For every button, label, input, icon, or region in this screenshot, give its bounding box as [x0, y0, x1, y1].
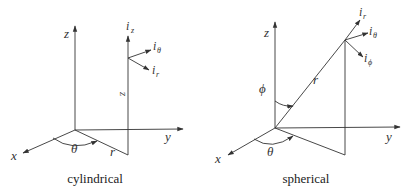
i-theta-label-base: i — [369, 24, 372, 38]
z-axis-label: z — [263, 25, 269, 40]
i-r-label: i r — [359, 5, 367, 21]
i-phi-label: i ϕ — [364, 51, 372, 67]
y-axis-label: y — [384, 129, 392, 144]
i-r-label-sub: r — [363, 12, 367, 21]
r-label: r — [110, 144, 116, 159]
i-phi-label-base: i — [364, 51, 367, 65]
i-z-label-base: i — [126, 19, 129, 33]
i-r-vector — [345, 20, 360, 40]
i-r-label-sub: r — [156, 70, 160, 79]
spherical-diagram: z y x θ ϕ r i r i θ i ϕ spherical — [214, 5, 400, 186]
i-r-label-base: i — [152, 63, 155, 77]
i-phi-label-sub: ϕ — [368, 58, 372, 67]
coordinate-systems-figure: z y x θ r z i z i θ i r cylindrical z — [0, 0, 410, 195]
projection-base-line — [275, 128, 345, 155]
i-theta-label-base: i — [153, 39, 156, 53]
cylindrical-diagram: z y x θ r z i z i θ i r cylindrical — [10, 19, 183, 186]
z-height-label: z — [118, 91, 130, 97]
i-r-label: i r — [152, 63, 160, 79]
i-theta-label: i θ — [153, 39, 161, 55]
phi-label: ϕ — [259, 81, 266, 96]
spherical-caption: spherical — [283, 171, 330, 186]
r-line — [75, 130, 128, 155]
y-axis-label: y — [163, 129, 171, 144]
i-theta-label-sub: θ — [373, 31, 377, 40]
phi-arc — [275, 101, 293, 106]
y-axis — [275, 127, 400, 128]
theta-label: θ — [267, 144, 274, 159]
theta-label: θ — [71, 141, 78, 156]
i-z-label-sub: z — [130, 26, 135, 35]
i-theta-label: i θ — [369, 24, 377, 40]
i-theta-vector — [128, 50, 151, 58]
i-theta-label-sub: θ — [157, 46, 161, 55]
r-line — [275, 40, 345, 128]
x-axis-label: x — [214, 151, 221, 166]
z-axis-label: z — [63, 26, 69, 41]
cylindrical-caption: cylindrical — [67, 171, 123, 186]
x-axis-label: x — [10, 148, 17, 163]
i-phi-vector — [345, 40, 363, 57]
i-r-label-base: i — [359, 5, 362, 19]
theta-arc — [254, 136, 293, 144]
i-r-vector — [128, 58, 149, 70]
x-axis — [23, 130, 75, 153]
i-theta-vector — [345, 33, 368, 40]
i-z-label: i z — [126, 19, 135, 35]
